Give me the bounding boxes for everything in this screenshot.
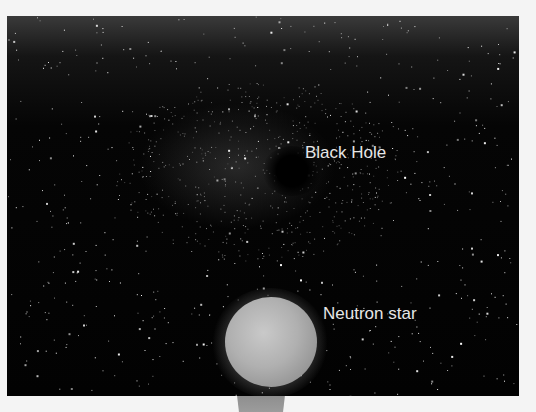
black-hole-label: Black Hole [305, 143, 386, 163]
neutron-star [225, 297, 317, 387]
space-scene: Black Hole Neutron star [7, 16, 519, 396]
neutron-star-label: Neutron star [323, 304, 417, 324]
